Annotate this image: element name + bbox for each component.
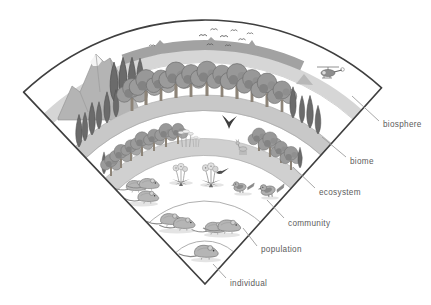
label-ecosystem: ecosystem — [319, 188, 361, 197]
ground-shadow — [191, 258, 221, 262]
label-individual: individual — [230, 279, 267, 288]
ecology-levels-diagram: biosphere biome ecosystem community popu… — [0, 0, 431, 305]
ground-shadow — [261, 196, 279, 199]
ecology-levels-figure: biosphere biome ecosystem community popu… — [0, 0, 431, 305]
label-biosphere: biosphere — [383, 120, 422, 129]
ground-shadow — [204, 233, 240, 238]
ground-shadow — [159, 229, 195, 234]
level-label-individual: individual — [213, 264, 267, 288]
label-biome: biome — [350, 157, 374, 166]
label-community: community — [288, 219, 331, 228]
label-population: population — [261, 245, 302, 254]
